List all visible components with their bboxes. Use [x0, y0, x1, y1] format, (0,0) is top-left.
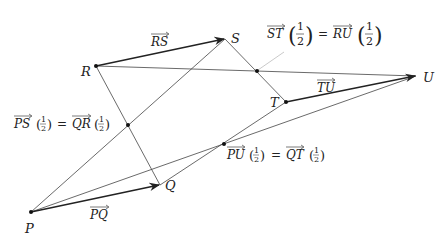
svg-text:1: 1	[41, 115, 46, 124]
svg-text:PS: PS	[13, 117, 30, 131]
svg-text:(: (	[288, 23, 297, 48]
point-R	[94, 64, 98, 68]
svg-text:2: 2	[297, 35, 304, 48]
svg-text:=: =	[271, 148, 281, 162]
svg-text:1: 1	[297, 20, 304, 33]
equation-PS-QR: PS ( 1 2 ) = QR ( 1 2 )	[13, 114, 110, 133]
svg-text:): )	[374, 23, 383, 48]
vector-diagram: P Q R S T U RS TU PQ PS ( 1	[0, 0, 441, 243]
diagram-canvas: P Q R S T U RS TU PQ PS ( 1	[0, 0, 441, 243]
midpoint-PS-QR	[126, 123, 130, 127]
svg-text:2: 2	[41, 124, 46, 133]
midpoint-PU-QT	[222, 142, 226, 146]
midpoint-ST-RU	[255, 69, 259, 73]
vector-label-TU: TU	[317, 78, 336, 95]
svg-text:RS: RS	[150, 35, 168, 49]
label-R: R	[80, 64, 91, 79]
svg-text:2: 2	[99, 124, 104, 133]
label-T: T	[270, 95, 280, 110]
svg-text:1: 1	[314, 146, 319, 155]
point-P	[29, 210, 33, 214]
svg-text:1: 1	[254, 146, 259, 155]
svg-text:QT: QT	[286, 148, 305, 162]
svg-text:1: 1	[99, 115, 104, 124]
svg-text:): )	[260, 148, 265, 163]
svg-text:2: 2	[366, 35, 373, 48]
label-S: S	[231, 31, 240, 46]
vector-label-PQ: PQ	[89, 205, 109, 222]
callout-line	[258, 52, 284, 70]
equation-ST-RU: ST ( 1 2 ) = RU ( 1 2 )	[267, 20, 383, 48]
vector-TU	[286, 76, 415, 102]
svg-text:ST: ST	[267, 27, 284, 41]
svg-text:=: =	[318, 27, 328, 41]
svg-text:RU: RU	[332, 27, 353, 41]
vector-label-RS: RS	[150, 32, 169, 49]
svg-text:PQ: PQ	[89, 208, 108, 222]
label-Q: Q	[165, 178, 176, 193]
svg-text:1: 1	[366, 20, 373, 33]
label-U: U	[423, 70, 435, 85]
point-T	[284, 100, 288, 104]
svg-text:2: 2	[314, 155, 319, 164]
svg-text:): )	[305, 23, 314, 48]
svg-text:PU: PU	[226, 148, 246, 162]
svg-text:QR: QR	[72, 117, 91, 131]
equation-PU-QT: PU ( 1 2 ) = QT ( 1 2 )	[226, 145, 325, 164]
svg-text:): )	[105, 117, 110, 132]
label-P: P	[24, 221, 34, 236]
svg-text:(: (	[357, 23, 366, 48]
svg-text:): )	[47, 117, 52, 132]
svg-text:): )	[320, 148, 325, 163]
svg-text:2: 2	[254, 155, 259, 164]
svg-text:TU: TU	[317, 81, 336, 95]
svg-text:=: =	[57, 117, 67, 131]
